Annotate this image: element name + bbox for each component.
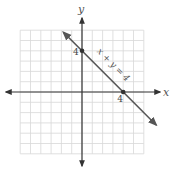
x-axis-label: x <box>163 86 170 99</box>
y-intercept-label: 4 <box>73 47 79 57</box>
x-intercept-label: 4 <box>117 94 123 104</box>
coordinate-plane: x y 4 4 x + y = 4 <box>0 0 171 172</box>
intercept-point <box>80 49 85 54</box>
y-axis-label: y <box>77 3 85 16</box>
equation-label: x + y = 4 <box>95 46 132 83</box>
